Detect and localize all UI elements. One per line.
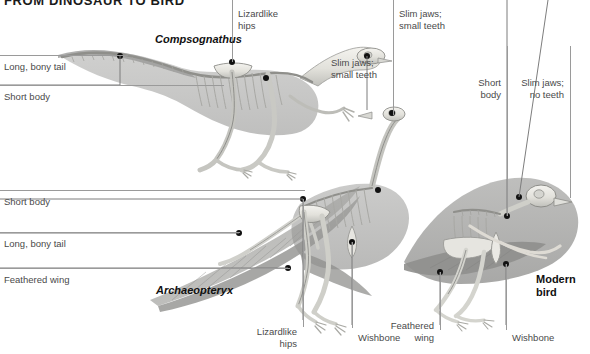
label-arch-slim-jaws: Slim jaws; small teeth bbox=[399, 8, 445, 31]
rule-bird-jaws bbox=[570, 46, 571, 198]
species-label-archaeopteryx: Archaeopteryx bbox=[156, 284, 233, 296]
label-comp-short-body: Short body bbox=[4, 91, 50, 103]
rule-arch-jaws bbox=[393, 0, 394, 115]
label-comp-lizardlike-hips: Lizardlike hips bbox=[238, 8, 278, 31]
rule-arch-hips-down bbox=[303, 199, 304, 327]
label-bird-wishbone: Wishbone bbox=[512, 332, 554, 344]
label-arch-short-body: Short body bbox=[4, 196, 50, 208]
label-bird-slim-jaws: Slim jaws; no teeth bbox=[503, 77, 564, 100]
rule-arch-wing bbox=[0, 268, 290, 269]
species-label-compsognathus: Compsognathus bbox=[155, 33, 242, 45]
rule-arch-body bbox=[0, 190, 305, 191]
label-arch-feathered-wing: Feathered wing bbox=[4, 274, 69, 286]
rule-bird-wing-down bbox=[440, 272, 441, 330]
label-bird-short-body: Short body bbox=[455, 77, 501, 100]
species-label-modern-bird: Modern bird bbox=[536, 273, 576, 298]
label-arch-lizardlike-hips: Lizardlike hips bbox=[231, 326, 297, 349]
archaeopteryx-skeleton bbox=[150, 107, 409, 335]
rule-comp-hips bbox=[232, 0, 233, 62]
modern-bird-skeleton bbox=[404, 178, 578, 331]
label-arch-long-bony-tail: Long, bony tail bbox=[4, 238, 66, 250]
rule-arch-tail bbox=[0, 232, 240, 233]
rule-comp-body bbox=[0, 85, 224, 86]
label-bird-feathered-wing: Feathered wing bbox=[375, 320, 434, 343]
figure-canvas: FROM DINOSAUR TO BIRD Compsognathus Arch… bbox=[0, 0, 590, 354]
page-title: FROM DINOSAUR TO BIRD bbox=[4, 0, 185, 8]
skeleton-artwork bbox=[0, 0, 590, 354]
rule-comp-tail bbox=[0, 55, 128, 56]
label-comp-slim-jaws: Slim jaws; small teeth bbox=[331, 57, 377, 80]
rule-bird-wishbone-down bbox=[506, 264, 507, 330]
rule-arch-wishbone-down bbox=[352, 242, 353, 328]
label-comp-long-bony-tail: Long, bony tail bbox=[4, 61, 66, 73]
rule-bird-shortbody bbox=[507, 46, 508, 216]
